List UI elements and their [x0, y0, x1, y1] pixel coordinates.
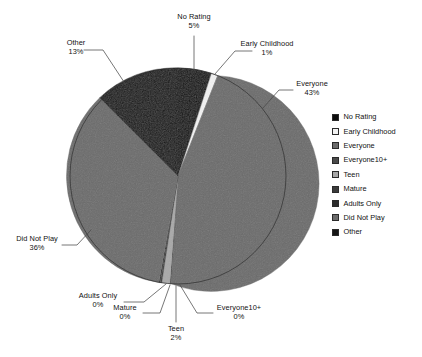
callout-everyone10plus-label: Everyone10+ [210, 303, 268, 312]
callout-teen: Teen 2% [158, 324, 194, 342]
legend-item-mature[interactable]: Mature [332, 182, 420, 196]
callout-everyone-value: 43% [287, 88, 337, 97]
legend-swatch-everyone10plus [332, 157, 339, 164]
callout-no-rating-value: 5% [153, 21, 235, 30]
legend-swatch-mature [332, 186, 339, 193]
legend-swatch-everyone [332, 142, 339, 149]
callout-no-rating-label: No Rating [153, 12, 235, 21]
legend-swatch-early-childhood [332, 128, 339, 135]
callout-other-label: Other [52, 38, 100, 47]
legend-label-everyone10plus: Everyone10+ [344, 156, 388, 164]
legend-label-teen: Teen [344, 171, 360, 179]
callout-no-rating: No Rating 5% [153, 12, 235, 30]
legend-item-other[interactable]: Other [332, 225, 420, 239]
legend-swatch-adults-only [332, 200, 339, 207]
callout-mature: Mature 0% [106, 303, 144, 321]
legend-item-adults-only[interactable]: Adults Only [332, 196, 420, 210]
callout-did-not-play-label: Did Not Play [10, 234, 64, 243]
legend-item-everyone[interactable]: Everyone [332, 139, 420, 153]
callout-everyone: Everyone 43% [287, 79, 337, 97]
legend-label-other: Other [344, 228, 362, 236]
legend-item-no-rating[interactable]: No Rating [332, 110, 420, 124]
callout-everyone10plus-value: 0% [210, 312, 268, 321]
leader-line-mature [143, 285, 170, 313]
callout-teen-value: 2% [158, 333, 194, 342]
legend-swatch-did-not-play [332, 214, 339, 221]
callout-early-childhood: Early Childhood 1% [225, 39, 309, 57]
legend-item-did-not-play[interactable]: Did Not Play [332, 211, 420, 225]
legend-label-did-not-play: Did Not Play [344, 214, 385, 222]
legend-label-mature: Mature [344, 185, 367, 193]
callout-other: Other 13% [52, 38, 100, 56]
callout-everyone10plus: Everyone10+ 0% [210, 303, 268, 321]
callout-everyone-label: Everyone [287, 79, 337, 88]
callout-mature-value: 0% [106, 312, 144, 321]
legend-label-early-childhood: Early Childhood [344, 128, 396, 136]
legend-label-adults-only: Adults Only [344, 200, 382, 208]
callout-mature-label: Mature [106, 303, 144, 312]
callout-other-value: 13% [52, 47, 100, 56]
chart-legend: No Rating Early Childhood Everyone Every… [332, 110, 420, 240]
pie-slices-group [66, 68, 319, 291]
callout-early-childhood-label: Early Childhood [225, 39, 309, 48]
legend-item-early-childhood[interactable]: Early Childhood [332, 124, 420, 138]
leader-line-adults-only [124, 284, 166, 302]
legend-label-no-rating: No Rating [344, 113, 377, 121]
legend-swatch-other [332, 229, 339, 236]
callout-did-not-play: Did Not Play 36% [10, 234, 64, 252]
legend-swatch-teen [332, 171, 339, 178]
pie-chart-figure: No Rating 5% Other 13% Early Childhood 1… [0, 0, 422, 357]
legend-item-teen[interactable]: Teen [332, 168, 420, 182]
legend-item-everyone10plus[interactable]: Everyone10+ [332, 153, 420, 167]
legend-label-everyone: Everyone [344, 142, 375, 150]
legend-swatch-no-rating [332, 114, 339, 121]
callout-teen-label: Teen [158, 324, 194, 333]
callout-adults-only-label: Adults Only [72, 291, 124, 300]
callout-did-not-play-value: 36% [10, 243, 64, 252]
callout-early-childhood-value: 1% [225, 48, 309, 57]
